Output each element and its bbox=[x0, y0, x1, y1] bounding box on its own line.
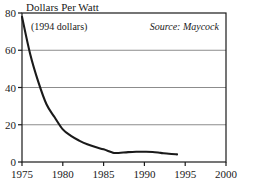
chart-figure: 020406080 197519801985199019952000 Dolla… bbox=[0, 0, 254, 183]
y-tick-label-0: 0 bbox=[11, 156, 17, 168]
dollars-per-watt-line-chart: 020406080 197519801985199019952000 Dolla… bbox=[0, 0, 254, 183]
y-axis: 020406080 bbox=[5, 7, 22, 168]
x-tick-label-1995: 1995 bbox=[174, 168, 197, 180]
x-tick-label-1975: 1975 bbox=[11, 168, 34, 180]
y-tick-label-40: 40 bbox=[5, 82, 17, 94]
chart-subtitle-annotation: (1994 dollars) bbox=[31, 21, 87, 33]
y-tick-label-80: 80 bbox=[5, 7, 17, 19]
y-tick-label-20: 20 bbox=[5, 119, 17, 131]
source-annotation: Source: Maycock bbox=[150, 21, 220, 32]
x-tick-label-1990: 1990 bbox=[133, 168, 156, 180]
y-tick-label-60: 60 bbox=[5, 44, 17, 56]
x-tick-label-1980: 1980 bbox=[52, 168, 75, 180]
x-tick-label-2000: 2000 bbox=[215, 168, 238, 180]
x-axis: 197519801985199019952000 bbox=[11, 162, 238, 180]
chart-title: Dollars Per Watt bbox=[26, 1, 99, 13]
x-tick-label-1985: 1985 bbox=[93, 168, 116, 180]
